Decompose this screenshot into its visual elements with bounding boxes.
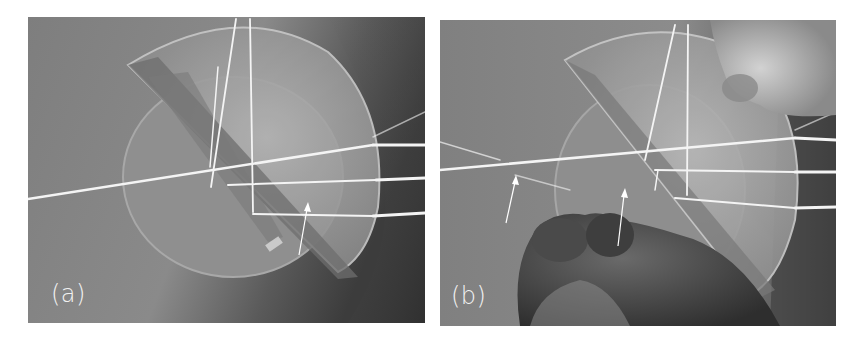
arrow-icon [28, 17, 425, 323]
panel-b-photo: (b) [440, 20, 836, 326]
arrow-icons [440, 20, 836, 326]
panel-a-photo: (a) [28, 17, 425, 323]
panel-label-b: (b) [451, 282, 486, 310]
arrow-icon-right [618, 188, 628, 246]
figure: (a) [0, 0, 856, 342]
panel-label-a: (a) [51, 280, 86, 308]
arrow-icon-left [506, 175, 519, 223]
